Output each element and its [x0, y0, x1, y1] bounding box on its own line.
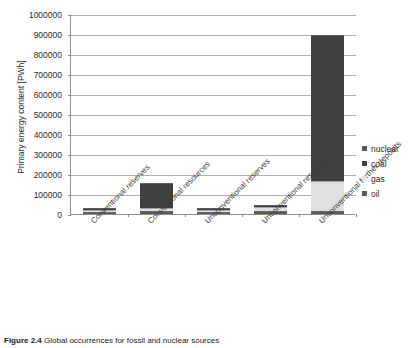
x-axis-tick-mark [242, 214, 243, 217]
legend-label: gas [371, 174, 385, 184]
y-axis-tick-label: 500000 [6, 110, 62, 120]
legend-label: oil [371, 189, 380, 199]
legend-swatch-oil [362, 191, 367, 196]
legend-swatch-coal [362, 161, 367, 166]
legend-swatch-nuclear [362, 146, 367, 151]
y-axis-tick-label: 800000 [6, 50, 62, 60]
legend-item-gas[interactable]: gas [362, 171, 399, 186]
legend-swatch-gas [362, 176, 367, 181]
y-axis-tick-label: 700000 [6, 70, 62, 80]
x-axis-tick-mark [356, 214, 357, 217]
legend-item-coal[interactable]: coal [362, 156, 399, 171]
legend-label: coal [371, 159, 387, 169]
y-axis-tick-label: 1000000 [6, 10, 62, 20]
legend-item-nuclear[interactable]: nuclear [362, 141, 399, 156]
x-axis-tick-mark [128, 214, 129, 217]
stacked-bar[interactable] [311, 35, 344, 214]
y-axis-tick-mark [68, 215, 71, 216]
y-axis-tick-label: 100000 [6, 190, 62, 200]
y-axis-tick-label: 0 [6, 210, 62, 220]
chart-legend: nuclearcoalgasoil [362, 141, 399, 201]
y-axis-tick-label: 300000 [6, 150, 62, 160]
y-axis-tick-label: 400000 [6, 130, 62, 140]
caption-number: Figure 2.4 [4, 336, 42, 345]
y-axis-tick-label: 900000 [6, 30, 62, 40]
caption-text: Global occurrences for fossil and nuclea… [44, 336, 219, 345]
bar-group[interactable] [71, 14, 128, 214]
plot-area [70, 15, 355, 215]
y-axis-tick-label: 200000 [6, 170, 62, 180]
x-axis-tick-mark [299, 214, 300, 217]
x-axis-tick-mark [185, 214, 186, 217]
legend-item-oil[interactable]: oil [362, 186, 399, 201]
y-axis-tick-label: 600000 [6, 90, 62, 100]
figure-caption: Figure 2.4 Global occurrences for fossil… [4, 336, 219, 345]
figure-container: Primary energy content [PWh] 01000002000… [0, 0, 414, 348]
legend-label: nuclear [371, 144, 399, 154]
